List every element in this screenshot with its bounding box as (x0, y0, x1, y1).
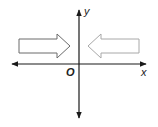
origin-label: O (66, 66, 75, 78)
right-arrow-pointing-left (88, 34, 139, 58)
left-arrow-pointing-right (19, 34, 70, 58)
y-axis-label: y (83, 5, 91, 17)
coordinate-plane-diagram: y x O (0, 0, 158, 127)
x-axis-label: x (140, 66, 147, 78)
